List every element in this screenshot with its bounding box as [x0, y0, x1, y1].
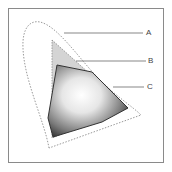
solid-polygon-gamut — [48, 65, 128, 137]
callout-label-a: A — [146, 29, 151, 37]
callout-label-c: C — [147, 83, 153, 91]
callout-label-b: B — [148, 57, 153, 65]
